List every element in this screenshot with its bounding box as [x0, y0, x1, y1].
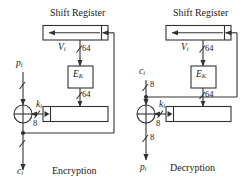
output-label-dec: pi: [140, 163, 147, 173]
key-label-enc: ki: [36, 100, 42, 110]
cipher-box-sub-dec: K: [202, 72, 206, 79]
feedback-signal-label-dec: Vi: [181, 43, 189, 53]
key-width-label-dec: 8: [156, 119, 160, 128]
feedback-signal-sub-dec: i: [187, 45, 189, 52]
key-width-label-enc: 8: [33, 119, 37, 128]
output-label-enc: ci: [17, 167, 23, 177]
cipher-box-sub-enc: K: [79, 72, 83, 79]
key-sub-dec: i: [163, 102, 165, 109]
output-register-box-enc: [43, 107, 108, 122]
input-sub-enc: i: [21, 61, 23, 68]
cipher-out-width-label-enc: 64: [82, 90, 91, 99]
feedback-signal-sub-enc: i: [64, 45, 66, 52]
cipher-box-label-enc: EK: [73, 70, 83, 80]
panel-caption-enc: Encryption: [52, 166, 96, 176]
shift-register-title-enc: Shift Register: [50, 8, 105, 18]
output-register-box-dec: [166, 107, 231, 122]
cipher-box-label-dec: EK: [196, 70, 206, 80]
shift-register-title-dec: Shift Register: [173, 8, 228, 18]
cipher-out-width-label-dec: 64: [205, 90, 214, 99]
input-label-dec: ci: [139, 67, 145, 77]
key-label-dec: ki: [159, 100, 165, 110]
feedback-signal-label-enc: Vi: [58, 43, 66, 53]
input-label-enc: pi: [16, 59, 23, 69]
key-sub-enc: i: [40, 102, 42, 109]
output-sub-enc: i: [21, 169, 23, 176]
junction-dot-enc: [21, 131, 25, 135]
junction-dot-dec: [144, 95, 148, 99]
output-width-label-dec: 8: [150, 133, 154, 142]
input-sub-dec: i: [143, 69, 145, 76]
panel-caption-dec: Decryption: [170, 163, 215, 173]
feedback-width-label-dec: 64: [205, 44, 214, 53]
cfb-mode-diagram: Shift Register Vi 64 EK 64 ki 8 pi ci En…: [0, 0, 247, 181]
output-sub-dec: i: [145, 165, 147, 172]
feedback-width-label-enc: 64: [82, 44, 91, 53]
input-width-label-dec: 8: [150, 80, 154, 89]
